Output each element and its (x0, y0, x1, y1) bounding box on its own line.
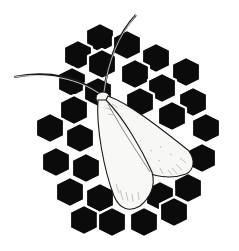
moth-on-honeycomb-illustration (0, 0, 239, 251)
illustration (0, 0, 239, 251)
